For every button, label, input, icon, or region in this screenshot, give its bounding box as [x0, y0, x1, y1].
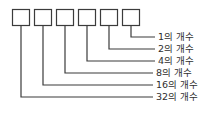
leader-line-group: [21, 26, 155, 98]
diagram-canvas: [0, 0, 206, 115]
digit-box-8[interactable]: [57, 10, 74, 26]
digit-box-2[interactable]: [101, 10, 118, 26]
leader-line-16: [43, 26, 153, 86]
box-row: [13, 10, 140, 26]
leader-line-1: [131, 26, 155, 38]
leader-line-4: [87, 26, 155, 62]
digit-box-32[interactable]: [13, 10, 30, 26]
diagram-root: 1의 개수 2의 개수 4의 개수 8의 개수 16의 개수 32의 개수: [0, 0, 206, 115]
digit-box-1[interactable]: [123, 10, 140, 26]
digit-box-16[interactable]: [35, 10, 52, 26]
digit-box-4[interactable]: [79, 10, 96, 26]
